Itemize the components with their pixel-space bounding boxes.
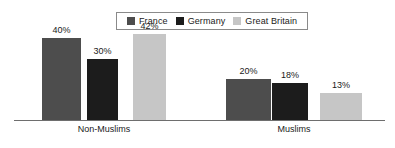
bar-muslims-germany: 18% [272, 83, 308, 120]
bar-non-muslims-germany: 30% [87, 59, 118, 120]
bar-value-label: 20% [226, 66, 271, 77]
bar-non-muslims-great-britain: 42% [133, 34, 166, 120]
x-axis-line [14, 120, 385, 121]
bar-non-muslims-france: 40% [42, 38, 81, 120]
bar-value-label: 18% [272, 70, 308, 81]
x-axis-label-non-muslims: Non-Muslims [58, 124, 150, 135]
bar-value-label: 42% [133, 21, 166, 32]
bar-value-label: 30% [87, 46, 118, 57]
x-axis-label-muslims: Muslims [248, 124, 340, 135]
bar-muslims-france: 20% [226, 79, 271, 120]
plot-area: 40% 30% 42% 20% 18% 13% Non-Muslims Musl… [0, 0, 395, 148]
bar-muslims-great-britain: 13% [320, 93, 362, 120]
bar-value-label: 13% [320, 80, 362, 91]
bar-value-label: 40% [42, 25, 81, 36]
bar-chart: France Germany Great Britain 40% 30% 42%… [0, 0, 395, 148]
